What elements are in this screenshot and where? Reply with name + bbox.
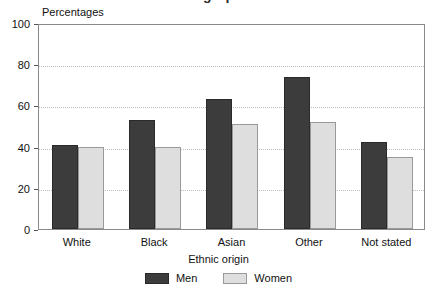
x-tick-label: White <box>63 236 91 248</box>
legend-swatch-men-icon <box>145 273 169 284</box>
x-tick-label: Black <box>141 236 168 248</box>
chart-title-clipped: …g…p… <box>0 0 437 3</box>
y-tick-mark <box>34 230 38 231</box>
bar-group <box>116 25 193 229</box>
bar-group <box>349 25 426 229</box>
bar-women-not-stated <box>387 157 413 229</box>
y-tick-mark <box>34 65 38 66</box>
bar-women-black <box>155 147 181 229</box>
x-tick-label: Not stated <box>361 236 411 248</box>
y-tick-label: 60 <box>0 100 30 112</box>
legend-label: Men <box>176 272 197 284</box>
y-tick-label: 20 <box>0 183 30 195</box>
bar-group <box>194 25 271 229</box>
bar-group <box>271 25 348 229</box>
x-axis-title: Ethnic origin <box>0 253 437 265</box>
bar-men-other <box>284 77 310 229</box>
bar-women-asian <box>232 124 258 229</box>
legend-swatch-women-icon <box>223 273 247 284</box>
bar-group <box>39 25 116 229</box>
bar-women-white <box>78 147 104 229</box>
bar-chart: …g…p… Percentages 020406080100 WhiteBlac… <box>0 0 437 292</box>
y-tick-label: 100 <box>0 18 30 30</box>
bar-men-asian <box>206 99 232 229</box>
bar-women-other <box>310 122 336 229</box>
y-tick-mark <box>34 24 38 25</box>
legend-item-women: Women <box>223 272 292 284</box>
y-tick-mark <box>34 189 38 190</box>
y-tick-mark <box>34 148 38 149</box>
bar-men-black <box>129 120 155 229</box>
legend-item-men: Men <box>145 272 197 284</box>
bar-men-not-stated <box>361 142 387 229</box>
chart-legend: MenWomen <box>0 272 437 284</box>
y-tick-label: 0 <box>0 224 30 236</box>
y-tick-label: 80 <box>0 59 30 71</box>
legend-label: Women <box>254 272 292 284</box>
y-tick-label: 40 <box>0 142 30 154</box>
x-tick-label: Other <box>295 236 323 248</box>
plot-area <box>38 24 425 230</box>
x-tick-label: Asian <box>218 236 246 248</box>
y-axis-title: Percentages <box>42 6 104 18</box>
y-tick-mark <box>34 106 38 107</box>
plot-inner <box>39 25 424 229</box>
bar-men-white <box>52 145 78 229</box>
